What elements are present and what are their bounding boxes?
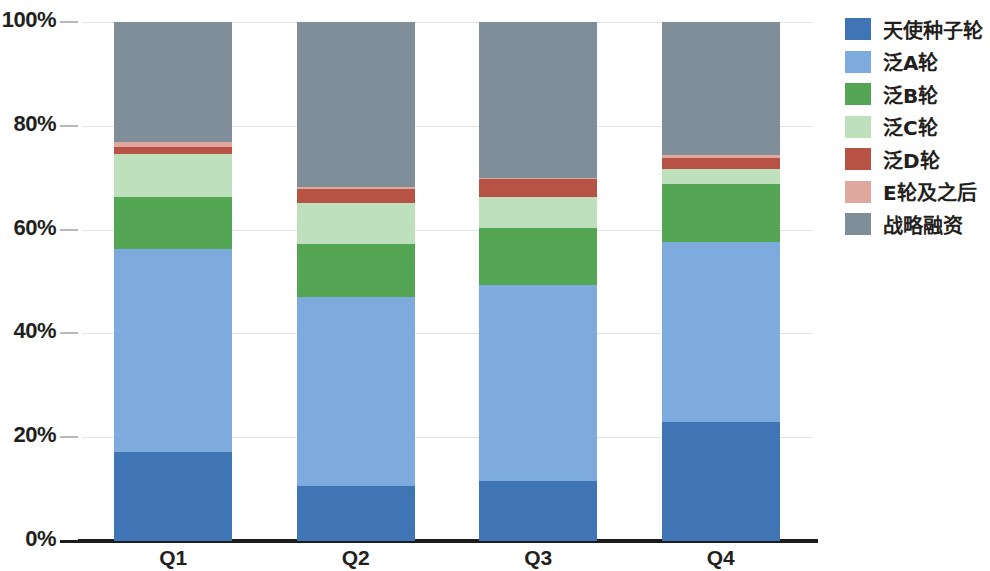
bar-segment[interactable]: [662, 184, 780, 242]
legend-item[interactable]: 泛A轮: [845, 47, 990, 77]
bar-segment[interactable]: [479, 481, 597, 541]
legend-label: 天使种子轮: [883, 15, 983, 44]
bar-segment[interactable]: [479, 22, 597, 178]
legend-item[interactable]: 天使种子轮: [845, 14, 990, 44]
y-axis-tick-mark: [60, 125, 78, 127]
bar-segment[interactable]: [297, 203, 415, 245]
bar-group-q3[interactable]: [479, 22, 597, 541]
bar-segment[interactable]: [479, 285, 597, 481]
legend-item[interactable]: 泛B轮: [845, 79, 990, 109]
bar-segment[interactable]: [114, 249, 232, 452]
y-axis-tick-label: 40%: [13, 318, 56, 344]
y-axis-tick-label: 80%: [13, 111, 56, 137]
bar-segment[interactable]: [114, 22, 232, 142]
y-axis-tick-mark: [60, 21, 78, 23]
bar-segment[interactable]: [662, 22, 780, 155]
x-axis-label-q2: Q2: [297, 546, 415, 570]
bar-stack: [479, 22, 597, 541]
x-axis-label-q4: Q4: [662, 546, 780, 570]
bar-stack: [114, 22, 232, 541]
y-axis-tick-mark: [60, 436, 78, 438]
legend-swatch-icon: [845, 213, 871, 235]
bar-segment[interactable]: [479, 197, 597, 228]
bar-segment[interactable]: [297, 244, 415, 297]
legend-label: 泛B轮: [883, 80, 938, 109]
legend-label: 战略融资: [883, 210, 963, 239]
legend-label: 泛D轮: [883, 145, 940, 174]
bar-segment[interactable]: [297, 22, 415, 187]
bar-segment[interactable]: [479, 228, 597, 285]
bar-segment[interactable]: [297, 297, 415, 486]
x-axis-label-q1: Q1: [114, 546, 232, 570]
bar-segment[interactable]: [114, 452, 232, 541]
bar-segment[interactable]: [114, 197, 232, 249]
legend-swatch-icon: [845, 148, 871, 170]
bar-segment[interactable]: [662, 169, 780, 184]
legend-swatch-icon: [845, 18, 871, 40]
y-axis-tick-label: 0%: [25, 526, 56, 552]
y-axis-tick-mark: [60, 540, 78, 543]
bar-segment[interactable]: [662, 158, 780, 168]
legend-item[interactable]: 泛D轮: [845, 144, 990, 174]
bar-segment[interactable]: [662, 155, 780, 158]
bar-segment[interactable]: [114, 142, 232, 146]
legend-item[interactable]: 泛C轮: [845, 112, 990, 142]
y-axis-tick-mark: [60, 229, 78, 231]
bar-segment[interactable]: [662, 422, 780, 541]
chart-legend: 天使种子轮泛A轮泛B轮泛C轮泛D轮E轮及之后战略融资: [845, 14, 990, 242]
bar-stack: [662, 22, 780, 541]
legend-item[interactable]: 战略融资: [845, 209, 990, 239]
bar-segment[interactable]: [114, 154, 232, 197]
bar-group-q2[interactable]: [297, 22, 415, 541]
legend-label: 泛C轮: [883, 112, 938, 141]
bar-group-q1[interactable]: [114, 22, 232, 541]
x-axis-label-q3: Q3: [479, 546, 597, 570]
bar-segment[interactable]: [479, 178, 597, 179]
legend-item[interactable]: E轮及之后: [845, 177, 990, 207]
legend-label: 泛A轮: [883, 47, 938, 76]
bar-segment[interactable]: [114, 147, 232, 154]
legend-label: E轮及之后: [883, 177, 977, 206]
bar-segment[interactable]: [297, 187, 415, 189]
bar-stack: [297, 22, 415, 541]
bar-segment[interactable]: [479, 179, 597, 197]
bar-segment[interactable]: [297, 189, 415, 203]
legend-swatch-icon: [845, 51, 871, 73]
legend-swatch-icon: [845, 181, 871, 203]
y-axis-tick-label: 100%: [2, 7, 56, 33]
y-axis-tick-label: 20%: [13, 422, 56, 448]
y-axis-tick-label: 60%: [13, 215, 56, 241]
bar-segment[interactable]: [662, 242, 780, 423]
stacked-bar-chart: 0%20%40%60%80%100% Q1Q2Q3Q4 天使种子轮泛A轮泛B轮泛…: [0, 0, 990, 571]
bar-segment[interactable]: [297, 486, 415, 541]
bar-group-q4[interactable]: [662, 22, 780, 541]
y-axis-tick-mark: [60, 332, 78, 334]
legend-swatch-icon: [845, 116, 871, 138]
legend-swatch-icon: [845, 83, 871, 105]
